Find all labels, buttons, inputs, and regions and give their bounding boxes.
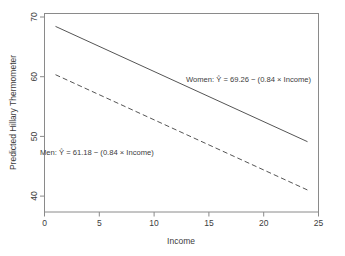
x-tick-label-10: 10 [149, 218, 159, 228]
x-tick-label-5: 5 [97, 218, 102, 228]
x-tick-label-20: 20 [259, 218, 269, 228]
x-tick-label-0: 0 [42, 218, 47, 228]
y-tick-label-50: 50 [29, 131, 39, 141]
x-tick-label-15: 15 [204, 218, 214, 228]
annotation-women-equation: Women: Ŷ = 69.26 − (0.84 × Income) [186, 75, 311, 84]
x-axis-title: Income [167, 236, 195, 246]
x-tick-label-25: 25 [314, 218, 324, 228]
y-tick-label-70: 70 [29, 12, 39, 22]
y-axis-title: Predicted Hillary Thermometer [8, 55, 18, 170]
y-tick-label-60: 60 [29, 72, 39, 82]
chart-figure: 0 5 10 15 20 25 40 50 60 70 Income Predi… [0, 0, 345, 256]
y-tick-label-40: 40 [29, 191, 39, 201]
annotation-men-equation: Men: Ŷ = 61.18 − (0.84 × Income) [40, 148, 154, 157]
chart-canvas: 0 5 10 15 20 25 40 50 60 70 Income Predi… [0, 0, 345, 256]
